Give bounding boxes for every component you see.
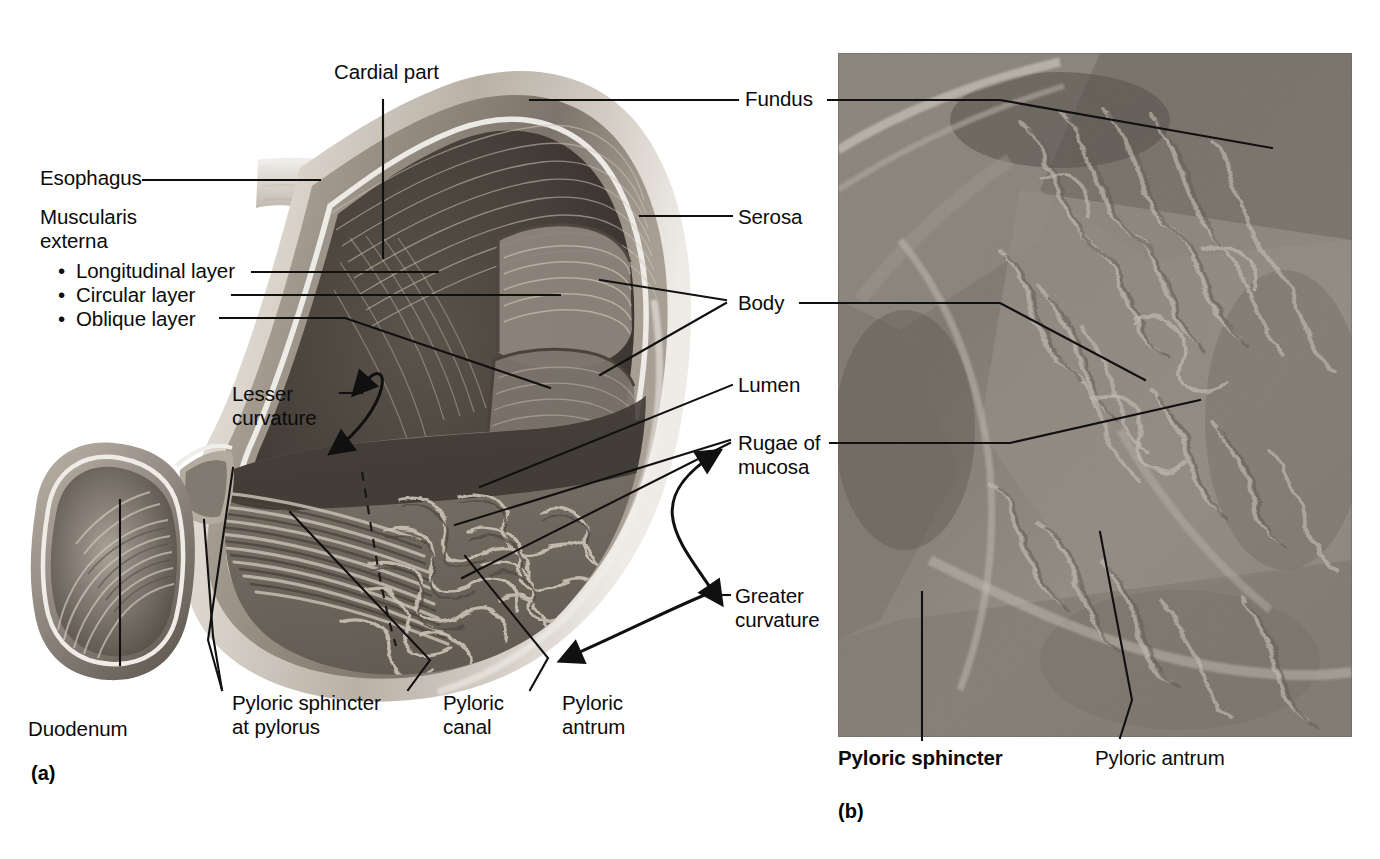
label-lumen: Lumen <box>738 372 800 397</box>
label-pyloric-sphincter-line2: at pylorus <box>232 714 320 739</box>
label-serosa: Serosa <box>738 204 802 229</box>
label-pyloric-sphincter-line1: Pyloric sphincter <box>232 690 381 715</box>
stomach-photograph <box>835 53 1365 737</box>
label-pyloric-antrum-line1: Pyloric <box>562 690 623 715</box>
label-rugae-of-mucosa-line2: mucosa <box>738 454 809 479</box>
label-cardial-part: Cardial part <box>334 59 439 84</box>
figure-artwork <box>0 0 1380 859</box>
label-muscularis-externa-line2: externa <box>40 228 108 253</box>
duodenum-shape <box>24 442 196 700</box>
label-lesser-curvature-line2: curvature <box>232 405 317 430</box>
label-fundus: Fundus <box>745 86 813 111</box>
figure-canvas: Cardial part Esophagus Muscularis extern… <box>0 0 1380 859</box>
panel-tag-a: (a) <box>31 762 55 785</box>
label-greater-curvature-line2: curvature <box>735 607 820 632</box>
bullet-circular-icon: • <box>58 282 65 307</box>
label-body: Body <box>738 290 784 315</box>
label-pyloric-canal-line2: canal <box>443 714 492 739</box>
label-longitudinal-layer: Longitudinal layer <box>76 258 235 283</box>
arrow-greater-curvature <box>672 452 718 590</box>
label-oblique-layer: Oblique layer <box>76 306 196 331</box>
label-pyloric-canal-line1: Pyloric <box>443 690 504 715</box>
label-pyloric-sphincter-photo: Pyloric sphincter <box>838 745 1003 770</box>
label-rugae-of-mucosa-line1: Rugae of <box>738 430 820 455</box>
label-greater-curvature-line1: Greater <box>735 583 804 608</box>
label-duodenum: Duodenum <box>28 716 128 741</box>
label-pyloric-antrum-line2: antrum <box>562 714 625 739</box>
label-circular-layer: Circular layer <box>76 282 195 307</box>
panel-tag-b: (b) <box>838 800 864 823</box>
label-lesser-curvature-line1: Lesser <box>232 381 293 406</box>
bullet-longitudinal-icon: • <box>58 258 65 283</box>
bullet-oblique-icon: • <box>58 306 65 331</box>
label-pyloric-antrum-photo: Pyloric antrum <box>1095 745 1225 770</box>
label-muscularis-externa-line1: Muscularis <box>40 204 137 229</box>
label-esophagus: Esophagus <box>40 165 142 190</box>
